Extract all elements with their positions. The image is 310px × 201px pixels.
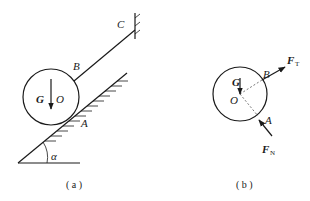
B-label-b: B [263,68,270,80]
caption-a: ( a ) [66,179,82,191]
radius-OB [240,80,262,94]
incline-hatching [45,81,128,141]
A-label-b: A [264,114,272,126]
figure-a: α G O B C A ( a ) [18,13,140,191]
A-label: A [80,117,88,129]
G-label: G [36,93,44,105]
figure-b: G O B F T A F N ( b ) [213,54,300,191]
alpha-label: α [51,150,57,162]
O-label: O [56,93,64,105]
wall-hatching [135,14,140,34]
C-label: C [117,18,125,30]
G-label-b: G [232,76,240,88]
angle-arc [43,142,48,163]
FT-label: F [286,54,295,66]
FT-subscript: T [295,60,300,68]
radius-OA [240,94,258,116]
diagram-canvas: α G O B C A ( a ) G O B F T [0,0,310,201]
incline-surface [18,73,127,163]
O-label-b: O [230,94,238,106]
FN-label: F [261,143,270,155]
B-label: B [73,60,80,72]
FN-subscript: N [270,149,275,157]
caption-b: ( b ) [236,179,253,191]
